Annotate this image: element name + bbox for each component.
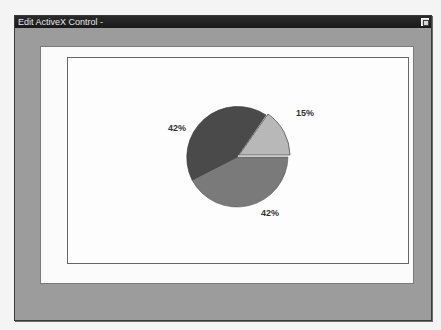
title-bar[interactable]: Edit ActiveX Control -: [15, 16, 431, 28]
activex-control-window: Edit ActiveX Control - 15% 42% 42%: [14, 15, 432, 321]
close-icon[interactable]: [421, 18, 429, 26]
slice-label-42-bottom: 42%: [261, 208, 279, 218]
plot-area: 15% 42% 42%: [67, 57, 409, 264]
chart-panel: 15% 42% 42%: [40, 46, 414, 284]
slice-label-42-top: 42%: [168, 123, 186, 133]
slice-label-15: 15%: [296, 108, 314, 118]
window-title: Edit ActiveX Control -: [18, 16, 103, 28]
pie-chart: [68, 58, 410, 265]
